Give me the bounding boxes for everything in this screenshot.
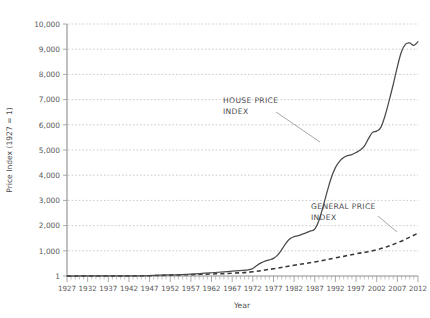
y-tick-label: 5,000 [39,146,60,155]
x-tick-label: 1957 [182,284,200,293]
x-tick-label: 1967 [223,284,241,293]
x-tick-label: 1937 [99,284,117,293]
x-tick-label: 1977 [264,284,282,293]
annotation-house-line2: INDEX [223,107,249,116]
x-tick-label: 1982 [285,284,303,293]
y-tick-label: 9,000 [39,45,60,54]
x-tick-label: 1987 [306,284,324,293]
y-tick-label: 1 [55,272,60,281]
x-tick-label: 1992 [326,284,344,293]
y-tick-marks-group [63,24,67,276]
series-house-price-index [67,42,418,276]
x-tick-label: 1972 [244,284,262,293]
x-tick-label: 2012 [409,284,427,293]
chart-canvas: 11,0002,0003,0004,0005,0006,0007,0008,00… [0,0,430,318]
y-tick-label: 1,000 [39,247,60,256]
x-tick-label: 1932 [79,284,97,293]
y-tick-label: 10,000 [34,20,60,29]
y-tick-label: 2,000 [39,221,60,230]
x-tick-label: 2007 [388,284,406,293]
price-index-chart: 11,0002,0003,0004,0005,0006,0007,0008,00… [0,0,430,318]
x-tick-label: 1962 [202,284,220,293]
x-tick-label: 1952 [161,284,179,293]
y-tick-label: 8,000 [39,70,60,79]
y-tick-label: 4,000 [39,171,60,180]
y-axis-title: Price Index (1927 = 1) [5,107,14,193]
x-tick-label: 1947 [141,284,159,293]
y-tick-labels-group: 11,0002,0003,0004,0005,0006,0007,0008,00… [34,20,60,281]
x-tick-marks-group [67,276,418,282]
x-tick-label: 2002 [368,284,386,293]
leader-line-general [378,216,397,232]
annotation-house-line1: HOUSE PRICE [223,96,278,105]
y-tick-label: 6,000 [39,121,60,130]
gridlines-group [68,24,418,251]
y-tick-label: 3,000 [39,196,60,205]
annotation-general-price-index: GENERAL PRICE INDEX [311,202,397,232]
x-tick-label: 1942 [120,284,138,293]
annotation-general-line2: INDEX [311,213,337,222]
annotation-general-line1: GENERAL PRICE [311,202,376,211]
x-tick-label: 1927 [58,284,76,293]
leader-line-house [276,112,320,142]
annotation-house-price-index: HOUSE PRICE INDEX [223,96,320,142]
x-tick-label: 1997 [347,284,365,293]
x-tick-labels-group: 1927193219371942194719521957196219671972… [58,284,427,293]
x-axis-title: Year [233,301,251,310]
series-general-price-index [67,233,418,276]
y-tick-label: 7,000 [39,95,60,104]
